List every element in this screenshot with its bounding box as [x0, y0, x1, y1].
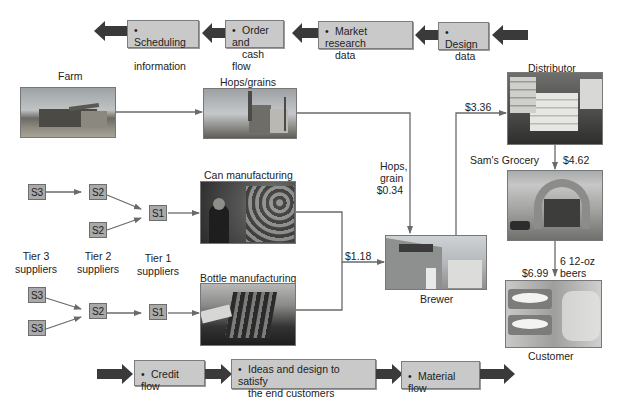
- left-arrow-icon: [292, 22, 319, 44]
- customer-price: $6.99: [522, 267, 548, 279]
- flow-box-order-and-cash-flow: •Order and cash flow: [225, 20, 284, 48]
- bullet: •: [445, 26, 455, 38]
- flow-box-text: Ideas and design to satisfy: [238, 363, 340, 387]
- flow-box-material-flow: •Material flow: [401, 361, 480, 389]
- left-arrow-icon: [492, 24, 528, 46]
- farm-photo: [20, 87, 116, 138]
- unit-line1: 6 12-oz: [560, 255, 595, 267]
- left-arrow-icon: [94, 20, 128, 42]
- right-arrow-icon: [205, 363, 232, 385]
- tier-1-label: Tier 1suppliers: [128, 252, 188, 278]
- flow-box-text: information: [134, 60, 186, 72]
- hops-price-line1: Hops,: [380, 160, 402, 172]
- right-arrow-icon: [480, 363, 515, 385]
- bullet: •: [325, 25, 335, 37]
- flow-box-market-research-data: •Market research data: [318, 21, 413, 49]
- grocery-price: $4.62: [563, 154, 589, 166]
- packaging-price: $1.18: [345, 250, 371, 262]
- hops-grains-label: Hops/grains: [220, 76, 276, 88]
- supplier-box-s1: S1: [149, 205, 167, 221]
- supplier-box-s3: S3: [28, 287, 46, 303]
- hops-grains-photo: [203, 88, 297, 139]
- bullet: •: [134, 24, 144, 36]
- flow-box-text: Design: [445, 38, 478, 50]
- brewer-label: Brewer: [420, 293, 453, 305]
- bullet: •: [238, 363, 248, 375]
- flow-box-ideas-and-design: •Ideas and design to satisfy the end cus…: [231, 359, 376, 389]
- tier-3-label: Tier 3suppliers: [6, 250, 66, 276]
- unit-line2: beers: [560, 267, 586, 279]
- distributor-price: $3.36: [465, 101, 491, 113]
- supplier-box-s2: S2: [89, 303, 107, 319]
- supplier-box-s3: S3: [28, 184, 46, 200]
- flow-box-text: the end customers: [248, 387, 334, 399]
- bullet: •: [232, 24, 242, 36]
- flow-box-text: data: [335, 49, 355, 61]
- brewer-photo: [385, 235, 487, 290]
- left-arrow-icon: [202, 22, 226, 44]
- bullet: •: [408, 370, 418, 382]
- bottle-manufacturing-photo: [200, 283, 296, 346]
- customer-label: Customer: [528, 350, 574, 362]
- right-arrow-icon: [376, 363, 403, 385]
- flow-box-text: Scheduling: [134, 36, 186, 48]
- distributor-photo: [507, 72, 603, 145]
- supplier-box-s1: S1: [149, 304, 167, 320]
- grocery-label: Sam's Grocery: [470, 154, 539, 166]
- flow-box-design-data: •Design data: [438, 22, 489, 50]
- bullet: •: [141, 368, 151, 380]
- hops-price-line2: grain: [380, 172, 402, 184]
- farm-label: Farm: [58, 70, 83, 82]
- hops-price-value: $0.34: [373, 184, 403, 196]
- left-arrow-icon: [415, 24, 439, 46]
- supplier-box-s2: S2: [89, 184, 107, 200]
- grocery-photo: [507, 170, 603, 241]
- right-arrow-icon: [97, 363, 133, 385]
- supplier-box-s3: S3: [28, 320, 46, 336]
- supplier-box-s2: S2: [89, 222, 107, 238]
- can-manufacturing-label: Can manufacturing: [204, 169, 293, 181]
- flow-box-credit-flow: •Credit flow: [134, 360, 205, 386]
- customer-photo: [505, 280, 602, 348]
- can-manufacturing-photo: [200, 181, 296, 244]
- flow-box-scheduling-information: •Scheduling information: [127, 20, 199, 48]
- tier-2-label: Tier 2suppliers: [68, 250, 128, 276]
- flow-box-text: data: [455, 50, 475, 62]
